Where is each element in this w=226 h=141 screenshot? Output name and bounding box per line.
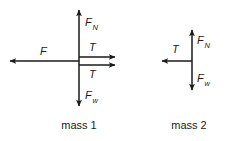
mass2-weight-force-vector: F w: [192, 61, 211, 90]
mass2-normal-force-vector: F N: [192, 30, 211, 61]
mass1-tension-upper-label: T: [89, 41, 97, 53]
mass1-diagram: F N F w F T T: [10, 10, 115, 131]
mass2-diagram: F N F w T mass 2: [162, 30, 211, 131]
mass1-normal-force-vector: F N: [79, 10, 99, 61]
mass1-tension-lower-vector: T: [79, 65, 115, 80]
mass2-caption: mass 2: [171, 119, 206, 131]
mass1-normal-force-subscript: N: [93, 23, 99, 32]
mass1-tension-lower-label: T: [89, 68, 97, 80]
mass2-weight-force-subscript: w: [205, 79, 211, 88]
mass2-normal-force-subscript: N: [205, 41, 211, 50]
mass2-tension-label: T: [172, 43, 180, 55]
mass1-caption: mass 1: [61, 119, 96, 131]
figure-canvas: F N F w F T T: [0, 0, 226, 141]
mass1-applied-force-vector: F: [10, 45, 79, 61]
mass2-tension-vector: T: [162, 43, 192, 61]
free-body-diagram: F N F w F T T: [0, 0, 226, 141]
mass1-applied-force-label: F: [40, 45, 48, 57]
mass1-tension-upper-vector: T: [79, 41, 115, 57]
mass1-weight-force-subscript: w: [93, 96, 99, 105]
